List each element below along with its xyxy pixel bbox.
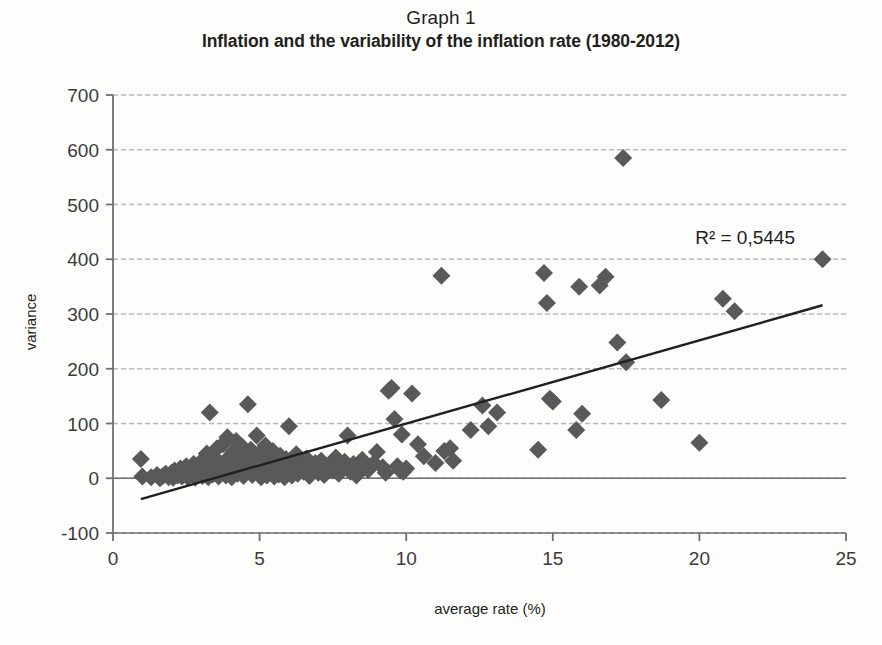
data-point: [570, 278, 588, 296]
data-point: [488, 404, 506, 422]
data-point: [652, 391, 670, 409]
data-point: [726, 302, 744, 320]
data-point: [538, 294, 556, 312]
y-tick-label: 500: [67, 195, 99, 216]
data-point: [608, 333, 626, 351]
data-point: [132, 450, 150, 468]
plot-svg: -1000100200300400500600700 0510152025 R²…: [0, 0, 882, 645]
data-point: [690, 434, 708, 452]
data-point: [280, 417, 298, 435]
data-point: [535, 264, 553, 282]
scatter-plot: -1000100200300400500600700 0510152025 R²…: [0, 0, 882, 645]
y-tick-label: 600: [67, 140, 99, 161]
data-point: [714, 290, 732, 308]
data-point: [201, 404, 219, 422]
data-point: [393, 425, 411, 443]
data-point: [573, 405, 591, 423]
x-tick-label: 25: [835, 548, 856, 569]
y-axis-label: variance: [22, 294, 39, 351]
data-point: [614, 149, 632, 167]
x-tick-label: 0: [108, 548, 119, 569]
x-tick-label: 20: [689, 548, 710, 569]
data-points: [132, 149, 832, 487]
data-point: [529, 441, 547, 459]
y-tick-label: 300: [67, 304, 99, 325]
data-point: [432, 267, 450, 285]
y-tick-label: 400: [67, 249, 99, 270]
y-tick-label: 0: [88, 468, 99, 489]
chart-figure: Graph 1 Inflation and the variability of…: [0, 0, 882, 645]
x-tick-label: 15: [542, 548, 563, 569]
x-tick-labels: 0510152025: [108, 548, 857, 569]
x-tick-label: 5: [254, 548, 265, 569]
y-tick-label: 100: [67, 414, 99, 435]
r-squared-annotation: R² = 0,5445: [695, 227, 795, 248]
y-tick-label: -100: [61, 523, 99, 544]
data-point: [814, 250, 832, 268]
y-tick-label: 700: [67, 85, 99, 106]
data-point: [239, 395, 257, 413]
data-point: [403, 384, 421, 402]
x-axis-label: average rate (%): [434, 600, 546, 617]
x-tick-label: 10: [396, 548, 417, 569]
y-tick-label: 200: [67, 359, 99, 380]
y-tick-labels: -1000100200300400500600700: [61, 85, 99, 544]
data-point: [479, 417, 497, 435]
